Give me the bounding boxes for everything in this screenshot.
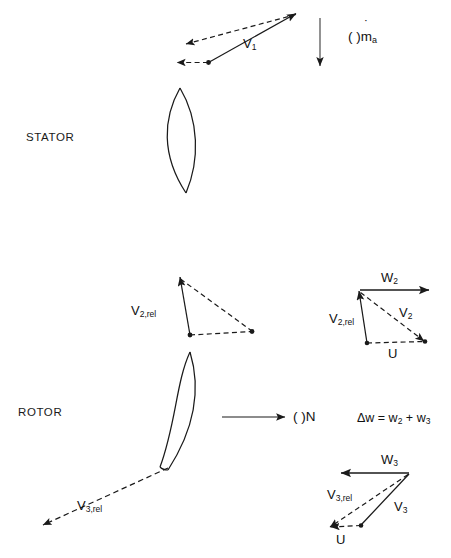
rotor-blade-suction-side bbox=[160, 352, 190, 467]
v1-subscript: 1 bbox=[252, 42, 257, 52]
equation-sub-1: 2 bbox=[398, 416, 403, 426]
equation-lhs: Δw = w bbox=[357, 411, 398, 425]
v3-subscript: 3 bbox=[403, 505, 408, 515]
equation-sub-2: 3 bbox=[426, 416, 431, 426]
rotor-inlet-velocity-triangle bbox=[180, 277, 254, 337]
v3rel-outlet-subscript: 3,rel bbox=[86, 504, 103, 514]
stator-blade bbox=[167, 88, 195, 193]
v2rel-triangle-subscript: 2,rel bbox=[338, 317, 355, 327]
w3-subscript: 3 bbox=[393, 458, 398, 468]
v3-symbol: V bbox=[394, 499, 403, 514]
v2rel-triangle-symbol: V bbox=[329, 311, 338, 326]
u-top-vector-line bbox=[367, 342, 425, 344]
stator-inlet-velocity-triangle bbox=[177, 14, 296, 65]
v2rel-triangle-label: V2,rel bbox=[329, 311, 354, 326]
rotor-inlet-node-right bbox=[250, 329, 255, 334]
mass-flow-symbol-group: ˙m bbox=[361, 29, 372, 44]
work-equation: Δw = w2 + w3 bbox=[357, 411, 430, 425]
u-top-label: U bbox=[388, 346, 397, 361]
v2rel-inlet-symbol: V bbox=[131, 303, 140, 318]
v1-triangle-node bbox=[206, 60, 211, 65]
w2-symbol: W bbox=[381, 270, 393, 285]
v2-vector-line bbox=[361, 293, 425, 342]
v2rel-inlet-subscript: 2,rel bbox=[140, 309, 157, 319]
rotor-blade bbox=[160, 352, 195, 470]
rotor-inlet-triangle-base bbox=[190, 332, 252, 336]
v1-triangle-dashed-upper bbox=[186, 15, 296, 45]
v3rel-triangle-label: V3,rel bbox=[327, 487, 352, 502]
v3rel-triangle-subscript: 3,rel bbox=[336, 493, 353, 503]
v3rel-outlet-vector-line bbox=[43, 468, 168, 525]
w3-symbol: W bbox=[381, 452, 393, 467]
mass-flow-prefix: ( ) bbox=[348, 29, 361, 44]
v3rel-outlet-label: V3,rel bbox=[77, 498, 102, 513]
w2-label: W2 bbox=[381, 270, 398, 285]
stator-blade-pressure-side bbox=[180, 88, 196, 193]
station2-node-right bbox=[423, 339, 428, 344]
stator-section-label: STATOR bbox=[26, 131, 74, 143]
turbomachinery-diagram: STATOR ROTOR ( )˙ma ( )N Δw = w2 + w3 V1… bbox=[0, 0, 451, 558]
station2-velocity-triangle bbox=[359, 290, 429, 345]
v2rel-inlet-label: V2,rel bbox=[131, 303, 156, 318]
station3-node bbox=[359, 523, 364, 528]
v3rel-triangle-symbol: V bbox=[327, 487, 336, 502]
mass-flow-subscript: a bbox=[372, 35, 377, 45]
rotor-inlet-triangle-hypotenuse bbox=[181, 279, 253, 331]
v2rel-triangle-vector-line bbox=[359, 291, 367, 343]
shaft-speed-label: ( )N bbox=[293, 409, 316, 424]
equation-operator: + w bbox=[402, 411, 425, 425]
v2-symbol: V bbox=[399, 305, 408, 320]
v2-subscript: 2 bbox=[408, 311, 413, 321]
mass-flow-label: ( )˙ma bbox=[348, 29, 377, 44]
v1-label: V1 bbox=[243, 36, 256, 51]
u-bottom-label: U bbox=[336, 532, 345, 547]
w3-label: W3 bbox=[381, 452, 398, 467]
stator-blade-suction-side bbox=[167, 88, 186, 193]
rotor-inlet-node-left bbox=[188, 333, 193, 338]
rotor-blade-pressure-side bbox=[168, 352, 195, 470]
station2-node-left bbox=[365, 341, 370, 346]
v2rel-inlet-vector-line bbox=[180, 277, 190, 335]
u-bottom-vector-line bbox=[331, 526, 361, 528]
rotor-section-label: ROTOR bbox=[18, 406, 62, 418]
w2-subscript: 2 bbox=[393, 276, 398, 286]
v3-label: V3 bbox=[394, 499, 407, 514]
v2-label: V2 bbox=[399, 305, 412, 320]
v3rel-outlet-symbol: V bbox=[77, 498, 86, 513]
v1-symbol: V bbox=[243, 36, 252, 51]
